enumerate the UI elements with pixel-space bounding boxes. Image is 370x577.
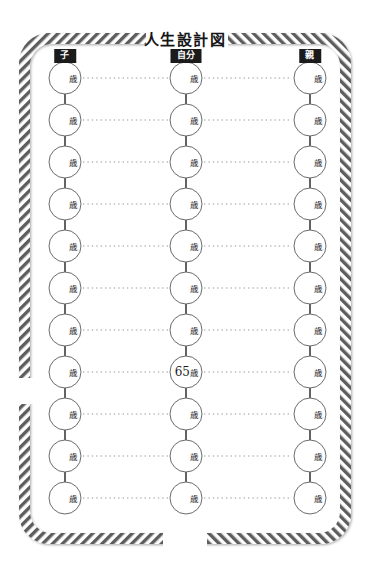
- column-header-parent: 親: [299, 49, 321, 63]
- life-plan-sheet: 人生設計図 子自分親歳歳歳歳歳歳歳歳歳歳歳歳歳歳歳歳歳歳65歳歳歳歳歳歳歳歳歳歳…: [0, 0, 370, 577]
- column-header-self: 自分: [171, 49, 202, 63]
- column-header-child: 子: [54, 49, 76, 63]
- timeline-diagram: [0, 0, 370, 577]
